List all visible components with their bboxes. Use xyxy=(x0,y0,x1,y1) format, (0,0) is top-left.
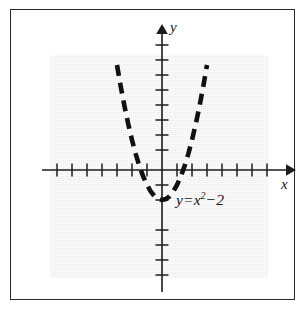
y-axis xyxy=(156,24,169,292)
y-axis-arrowhead xyxy=(156,24,168,34)
equation-lhs: y xyxy=(176,191,183,208)
equation-constant: 2 xyxy=(216,191,224,208)
figure-root: y x y=x2−2 xyxy=(0,0,304,313)
equation-equals: = xyxy=(183,191,194,208)
equation-minus: − xyxy=(206,191,217,208)
x-axis xyxy=(42,164,296,177)
equation-annotation: y=x2−2 xyxy=(176,192,224,208)
graph-canvas xyxy=(0,0,304,313)
y-axis-label: y xyxy=(170,20,177,35)
x-axis-label: x xyxy=(281,177,288,192)
equation-base: x xyxy=(194,191,201,208)
x-axis-arrowhead xyxy=(286,164,296,176)
equation-exponent: 2 xyxy=(201,190,206,201)
